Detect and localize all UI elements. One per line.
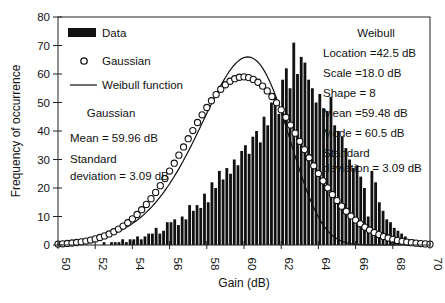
gaussian-std-value: deviation = 3.09 dB (70, 170, 169, 182)
histogram-bar (144, 236, 147, 245)
legend-gaussian-marker (81, 58, 87, 64)
histogram-bar (318, 94, 321, 245)
gaussian-marker (139, 207, 145, 213)
histogram-bar (136, 236, 139, 245)
gaussian-std-label: Standard (70, 153, 117, 165)
histogram-bar (281, 80, 284, 245)
gaussian-annotation: Gaussian Mean = 59.96 dB Standard deviat… (70, 107, 169, 182)
histogram-bar (192, 211, 195, 245)
histogram-bar (251, 137, 254, 245)
gaussian-marker (269, 93, 275, 99)
weibull-title: Weibull (357, 27, 395, 39)
gaussian-marker (194, 119, 200, 125)
histogram-bar (166, 222, 169, 245)
gaussian-marker (185, 136, 191, 142)
histogram-bar (363, 188, 366, 245)
y-axis-label: Frequency of occurrence (9, 64, 23, 197)
histogram-bar (207, 202, 210, 245)
histogram-bar (270, 103, 273, 246)
gaussian-marker (297, 138, 303, 144)
histogram-bar (255, 131, 258, 245)
gaussian-marker (334, 197, 340, 203)
gaussian-marker (199, 112, 205, 118)
histogram-bar (140, 239, 143, 245)
gaussian-marker (213, 92, 219, 98)
gaussian-marker (306, 155, 312, 161)
gaussian-title: Gaussian (87, 107, 136, 119)
gaussian-marker (320, 178, 326, 184)
gaussian-marker (339, 203, 345, 209)
gaussian-marker (311, 163, 317, 169)
x-tick-label: 66 (358, 258, 370, 271)
gaussian-marker (287, 122, 293, 128)
histogram-bar (263, 117, 266, 245)
y-tick-label: 70 (37, 40, 50, 52)
histogram-bar (184, 219, 187, 245)
histogram-bar (307, 80, 310, 245)
histogram-bar (129, 239, 132, 245)
x-tick-label: 70 (432, 258, 444, 271)
x-tick-label: 56 (172, 258, 184, 271)
legend-weibull-label: Weibull function (102, 79, 183, 91)
gaussian-mean: Mean = 59.96 dB (70, 132, 158, 144)
histogram-bar (196, 205, 199, 245)
y-tick-label: 80 (37, 11, 50, 23)
gaussian-marker (190, 127, 196, 133)
legend-gaussian-label: Gaussian (102, 55, 151, 67)
histogram-bar (155, 228, 158, 245)
gaussian-marker (148, 196, 154, 202)
y-tick-label: 20 (37, 182, 50, 194)
histogram-chart: 01020304050607080 5052545658606264666870… (0, 0, 445, 303)
x-tick-label: 64 (320, 258, 332, 271)
histogram-bar (292, 43, 295, 245)
gaussian-marker (180, 144, 186, 150)
histogram-bar (218, 171, 221, 245)
histogram-bar (237, 165, 240, 245)
gaussian-marker (171, 160, 177, 166)
legend-data-swatch (68, 28, 96, 37)
y-tick-label: 10 (37, 211, 50, 223)
histogram-bar (222, 179, 225, 245)
histogram-bar (333, 125, 336, 245)
x-tick-label: 52 (97, 258, 109, 271)
gaussian-marker (208, 98, 214, 104)
histogram-bar (211, 182, 214, 245)
legend: Data Gaussian Weibull function (68, 27, 183, 91)
histogram-bar (352, 168, 355, 245)
histogram-bar (277, 114, 280, 245)
histogram-bar (233, 160, 236, 246)
histogram-bar (274, 97, 277, 245)
histogram-bar (248, 154, 251, 245)
histogram-bar (214, 188, 217, 245)
histogram-bar (188, 205, 191, 245)
histogram-bar (229, 174, 232, 245)
histogram-bar (177, 225, 180, 245)
gaussian-marker (283, 114, 289, 120)
histogram-bar (356, 165, 359, 245)
x-tick-label: 58 (209, 258, 221, 271)
weibull-annotation: Weibull Location =42.5 dB Scale =18.0 dB… (323, 27, 422, 174)
y-tick-label: 60 (37, 68, 50, 80)
histogram-bar (151, 234, 154, 245)
histogram-bar (181, 217, 184, 246)
histogram-bar (266, 125, 269, 245)
histogram-bar (225, 168, 228, 245)
x-axis-label: Gain (dB) (218, 276, 269, 290)
histogram-bar (259, 142, 262, 245)
gaussian-marker (264, 88, 270, 94)
histogram-bar (199, 208, 202, 245)
y-tick-label: 40 (37, 125, 50, 137)
legend-data-label: Data (102, 27, 127, 39)
histogram-bar (203, 194, 206, 245)
histogram-bar (359, 177, 362, 245)
histogram-bar (378, 202, 381, 245)
x-tick-label: 60 (246, 258, 258, 271)
weibull-location: Location =42.5 dB (323, 47, 416, 59)
x-tick-label: 68 (395, 258, 407, 271)
gaussian-marker (301, 147, 307, 153)
weibull-mode: Mode = 60.5 dB (323, 127, 405, 139)
x-tick-label: 54 (134, 258, 146, 271)
histogram-bar (121, 239, 124, 245)
weibull-mean: Mean =59.48 dB (323, 107, 408, 119)
gaussian-marker (315, 170, 321, 176)
